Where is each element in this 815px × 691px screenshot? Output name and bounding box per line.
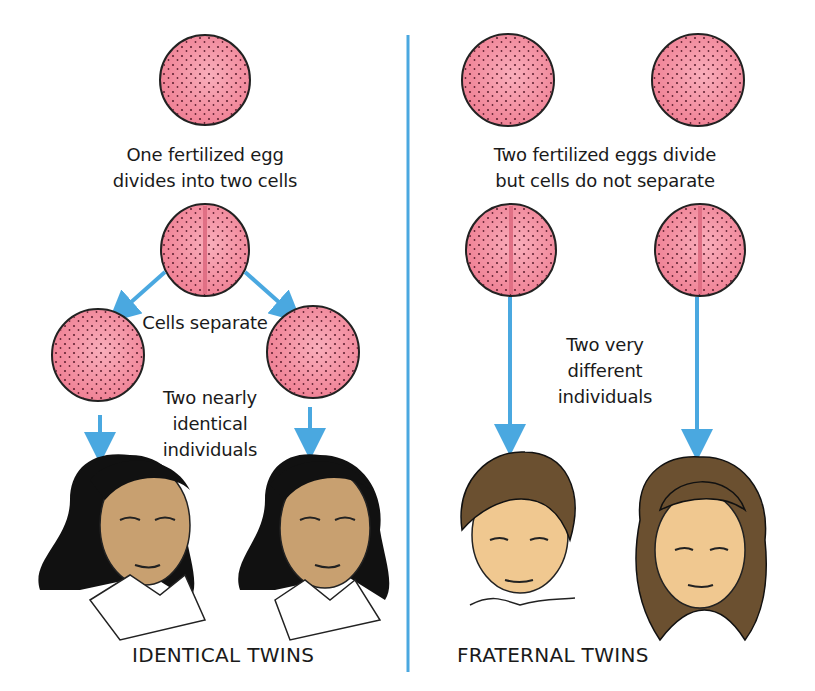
fraternal-twins-title: FRATERNAL TWINS [457,643,649,667]
fertilized-egg-icon [160,35,250,125]
arrow-icon [245,272,290,312]
identical-twin-face-right-icon [238,454,389,640]
twins-diagram [0,0,815,691]
identical-twins-title: IDENTICAL TWINS [132,643,314,667]
fertilized-egg-2-icon [652,34,744,126]
right-caption: Two fertilized eggs divide but cells do … [470,142,740,194]
identical-result-line2: identical [150,411,270,437]
fraternal-result-caption: Two very different individuals [545,332,665,410]
fraternal-result-line3: individuals [545,384,665,410]
arrow-icon [120,272,165,312]
right-caption-line1: Two fertilized eggs divide [470,142,740,168]
fraternal-twin-girl-face-icon [636,457,766,640]
two-cell-stage-icon [161,204,249,296]
identical-result-line1: Two nearly [150,385,270,411]
two-cell-stage-2-icon [655,204,745,296]
fraternal-result-line2: different [545,358,665,384]
identical-result-caption: Two nearly identical individuals [150,385,270,463]
separated-cell-right-icon [267,306,359,398]
right-caption-line2: but cells do not separate [470,168,740,194]
identical-twin-face-left-icon [38,454,205,640]
fraternal-result-line1: Two very [545,332,665,358]
fertilized-egg-1-icon [462,34,554,126]
identical-result-line3: individuals [150,437,270,463]
left-caption-line2: divides into two cells [105,168,305,194]
two-cell-stage-1-icon [466,204,556,296]
cells-separate-label: Cells separate [130,310,280,336]
left-caption-line1: One fertilized egg [105,142,305,168]
fraternal-twin-boy-face-icon [461,452,575,605]
left-caption: One fertilized egg divides into two cell… [105,142,305,194]
